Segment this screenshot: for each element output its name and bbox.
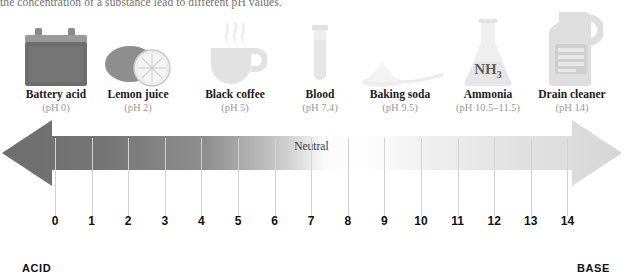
substance-column-lemon-juice: Lemon juice (pH 2)	[83, 14, 193, 114]
axis-tick-label: 12	[479, 214, 509, 228]
flask-formula-subscript: 3	[497, 69, 502, 80]
axis-tick	[458, 138, 459, 216]
axis-tick-label: 11	[443, 214, 473, 228]
axis-tick	[421, 138, 422, 216]
axis-tick-label: 1	[77, 214, 107, 228]
axis-tick-label: 13	[516, 214, 546, 228]
axis-tick	[384, 138, 385, 216]
axis-tick	[55, 138, 56, 216]
axis-tick-label: 10	[406, 214, 436, 228]
axis-tick	[494, 138, 495, 216]
axis-tick-label: 5	[223, 214, 253, 228]
axis-tick	[348, 138, 349, 216]
axis-tick	[165, 138, 166, 216]
axis-tick-label: 6	[260, 214, 290, 228]
ph-number-axis: 01234567891011121314	[0, 118, 624, 236]
substance-ph: (pH 14)	[517, 101, 624, 114]
substance-name: Drain cleaner	[517, 88, 624, 101]
substance-column-drain-cleaner: Drain cleaner (pH 14)	[517, 14, 624, 114]
axis-tick-label: 14	[552, 214, 582, 228]
axis-tick-label: 9	[369, 214, 399, 228]
intro-text: the concentration of a substance lead to…	[0, 0, 624, 10]
axis-tick	[128, 138, 129, 216]
axis-tick	[92, 138, 93, 216]
axis-tick-label: 8	[333, 214, 363, 228]
axis-tick-label: 2	[113, 214, 143, 228]
axis-tick-label: 0	[40, 214, 70, 228]
acid-label: ACID	[22, 262, 51, 274]
axis-tick	[238, 138, 239, 216]
axis-tick	[275, 138, 276, 216]
axis-tick-label: 4	[186, 214, 216, 228]
substance-name: Lemon juice	[83, 88, 193, 101]
axis-tick	[201, 138, 202, 216]
axis-tick-label: 3	[150, 214, 180, 228]
drain-cleaner-jug-icon	[517, 14, 624, 88]
axis-tick	[567, 138, 568, 216]
substance-ph: (pH 2)	[83, 101, 193, 114]
axis-tick	[531, 138, 532, 216]
axis-tick-label: 7	[296, 214, 326, 228]
axis-tick	[311, 138, 312, 216]
flask-formula-base: NH	[474, 61, 497, 77]
base-label: BASE	[577, 262, 610, 274]
lemon-icon	[83, 14, 193, 88]
